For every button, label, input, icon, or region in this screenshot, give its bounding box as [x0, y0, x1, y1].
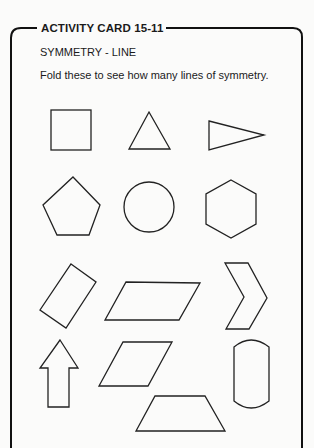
parallelogram-shape [105, 282, 200, 320]
rhombus-shape [99, 342, 172, 386]
circle-shape [124, 182, 174, 232]
capsule-shape [234, 340, 269, 408]
chevron-shape [225, 263, 267, 329]
up-arrow-shape [40, 340, 78, 407]
pentagon-shape [43, 177, 100, 235]
shapes-area [0, 0, 314, 448]
equilateral-triangle-shape [129, 112, 170, 149]
trapezoid-shape [136, 396, 225, 431]
tilted-rectangle-shape [40, 264, 96, 328]
isosceles-triangle-shape [209, 121, 264, 150]
hexagon-shape [206, 180, 256, 238]
square-shape [51, 110, 91, 150]
